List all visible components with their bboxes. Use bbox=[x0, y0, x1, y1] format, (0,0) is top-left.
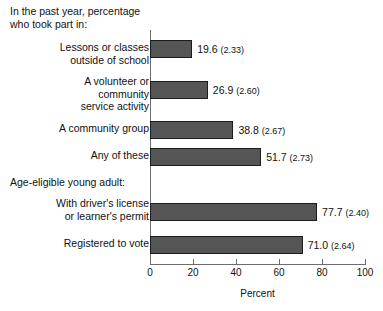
bar-category-label: Any of these bbox=[4, 149, 149, 162]
x-tick-label-100: 100 bbox=[357, 267, 374, 278]
bar bbox=[150, 121, 233, 139]
x-tick-40 bbox=[236, 259, 237, 265]
x-tick-label-20: 20 bbox=[187, 267, 198, 278]
bar-category-label: A volunteer or community service activit… bbox=[4, 75, 149, 113]
bar-value-label: 51.7 (2.73) bbox=[266, 151, 313, 163]
bar-value-number: 19.6 bbox=[197, 43, 220, 55]
bar-value-label: 26.9 (2.60) bbox=[213, 84, 260, 96]
bar-category-label: Lessons or classes outside of school bbox=[4, 41, 149, 66]
bar-standard-error: (2.67) bbox=[262, 126, 286, 136]
x-tick-label-60: 60 bbox=[273, 267, 284, 278]
x-tick-100 bbox=[365, 259, 366, 265]
x-tick-0 bbox=[150, 259, 151, 265]
bar-category-label: With driver's license or learner's permi… bbox=[4, 197, 149, 222]
chart-title: In the past year, percentage who took pa… bbox=[10, 5, 240, 31]
bar-standard-error: (2.60) bbox=[236, 86, 260, 96]
section-heading-age-eligible: Age-eligible young adult: bbox=[10, 176, 125, 188]
bar-value-label: 38.8 (2.67) bbox=[238, 124, 285, 136]
bar-category-label: Registered to vote bbox=[4, 237, 149, 250]
x-tick-20 bbox=[193, 259, 194, 265]
bar-standard-error: (2.40) bbox=[345, 208, 369, 218]
x-tick-label-40: 40 bbox=[230, 267, 241, 278]
bar-value-number: 38.8 bbox=[238, 124, 261, 136]
x-tick-60 bbox=[279, 259, 280, 265]
bar bbox=[150, 148, 261, 166]
bar-value-label: 71.0 (2.64) bbox=[308, 239, 355, 251]
x-axis-line bbox=[150, 264, 365, 265]
x-tick-80 bbox=[322, 259, 323, 265]
bar-standard-error: (2.33) bbox=[220, 45, 244, 55]
bar-value-label: 19.6 (2.33) bbox=[197, 43, 244, 55]
bar bbox=[150, 40, 192, 58]
bar-value-number: 77.7 bbox=[322, 206, 345, 218]
bar-standard-error: (2.64) bbox=[331, 241, 355, 251]
bar bbox=[150, 236, 303, 254]
bar-value-number: 26.9 bbox=[213, 84, 236, 96]
bar-chart: In the past year, percentage who took pa… bbox=[0, 0, 383, 311]
bar-value-label: 77.7 (2.40) bbox=[322, 206, 369, 218]
bar bbox=[150, 203, 317, 221]
bar-category-label: A community group bbox=[4, 122, 149, 135]
bar-value-number: 71.0 bbox=[308, 239, 331, 251]
x-tick-label-80: 80 bbox=[316, 267, 327, 278]
bar-standard-error: (2.73) bbox=[290, 153, 314, 163]
bar bbox=[150, 81, 208, 99]
x-axis-title: Percent bbox=[150, 288, 365, 299]
x-tick-label-0: 0 bbox=[147, 267, 153, 278]
bar-value-number: 51.7 bbox=[266, 151, 289, 163]
